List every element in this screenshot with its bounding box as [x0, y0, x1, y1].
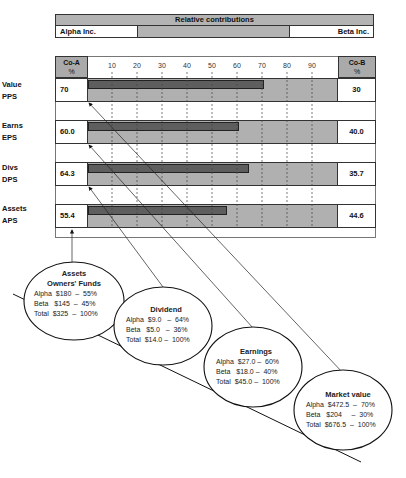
ellipse-line: Beta $145 – 45% [34, 299, 114, 309]
ellipse-line: Total $14.0 – 100% [126, 335, 206, 345]
ellipse-subtitle: Owners' Funds [34, 279, 114, 289]
ellipse-earnings-text: Earnings Alpha $27.0 – 60% Beta $18.0 – … [216, 347, 296, 387]
ellipse-title: Market value [306, 390, 390, 400]
ellipse-line: Total $325 – 100% [34, 309, 114, 319]
ellipse-title: Assets [34, 269, 114, 279]
ellipse-line: Beta $5.0 – 36% [126, 325, 206, 335]
ellipse-line: Beta $18.0 – 40% [216, 367, 296, 377]
ellipse-title: Dividend [126, 305, 206, 315]
ellipse-line: Total $676.5 – 100% [306, 420, 390, 430]
ellipse-assets-text: Assets Owners' Funds Alpha $180 – 55% Be… [34, 269, 114, 319]
ellipse-line: Total $45.0 – 100% [216, 377, 296, 387]
ellipse-line: Alpha $472.5 – 70% [306, 400, 390, 410]
ellipse-market-value-text: Market value Alpha $472.5 – 70% Beta $20… [306, 390, 390, 430]
ellipse-line: Alpha $9.0 – 64% [126, 315, 206, 325]
ellipse-line: Beta $204 – 30% [306, 410, 390, 420]
ellipse-dividend-text: Dividend Alpha $9.0 – 64% Beta $5.0 – 36… [126, 305, 206, 345]
ellipse-line: Alpha $180 – 55% [34, 289, 114, 299]
ellipse-title: Earnings [216, 347, 296, 357]
ellipse-line: Alpha $27.0 – 60% [216, 357, 296, 367]
